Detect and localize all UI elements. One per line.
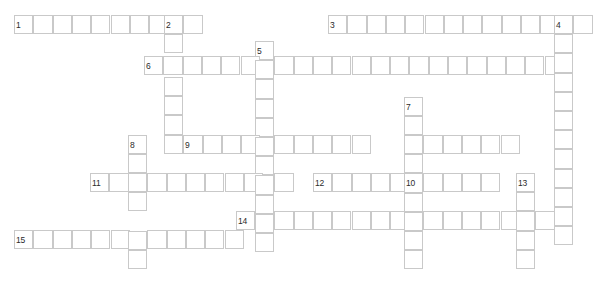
crossword-cell[interactable] — [332, 56, 351, 75]
crossword-cell[interactable] — [390, 56, 409, 75]
crossword-cell[interactable] — [186, 173, 205, 192]
crossword-cell[interactable] — [164, 15, 183, 34]
crossword-cell[interactable] — [164, 135, 183, 154]
crossword-cell[interactable] — [371, 173, 390, 192]
crossword-cell[interactable] — [404, 173, 423, 192]
crossword-cell[interactable] — [554, 34, 573, 53]
crossword-cell[interactable] — [404, 116, 423, 135]
crossword-cell[interactable] — [371, 211, 390, 230]
crossword-cell[interactable] — [404, 193, 423, 212]
crossword-cell[interactable] — [481, 211, 500, 230]
crossword-cell[interactable] — [255, 79, 274, 98]
crossword-cell[interactable] — [352, 173, 371, 192]
crossword-cell[interactable] — [274, 173, 293, 192]
crossword-cell[interactable] — [332, 211, 351, 230]
crossword-cell[interactable] — [14, 230, 33, 249]
crossword-cell[interactable] — [183, 15, 202, 34]
crossword-cell[interactable] — [111, 15, 130, 34]
crossword-cell[interactable] — [554, 92, 573, 111]
crossword-cell[interactable] — [183, 56, 202, 75]
crossword-cell[interactable] — [205, 230, 224, 249]
crossword-cell[interactable] — [423, 173, 442, 192]
crossword-cell[interactable] — [554, 73, 573, 92]
crossword-cell[interactable] — [352, 56, 371, 75]
crossword-cell[interactable] — [332, 173, 351, 192]
crossword-cell[interactable] — [371, 56, 390, 75]
crossword-cell[interactable] — [221, 56, 240, 75]
crossword-cell[interactable] — [164, 96, 183, 115]
crossword-cell[interactable] — [554, 226, 573, 245]
crossword-cell[interactable] — [128, 231, 147, 250]
crossword-cell[interactable] — [130, 15, 149, 34]
crossword-cell[interactable] — [274, 135, 293, 154]
crossword-cell[interactable] — [128, 154, 147, 173]
crossword-cell[interactable] — [429, 56, 448, 75]
crossword-cell[interactable] — [294, 56, 313, 75]
crossword-cell[interactable] — [462, 211, 481, 230]
crossword-cell[interactable] — [202, 56, 221, 75]
crossword-cell[interactable] — [313, 211, 332, 230]
crossword-cell[interactable] — [482, 15, 501, 34]
crossword-cell[interactable] — [462, 135, 481, 154]
crossword-cell[interactable] — [255, 195, 274, 214]
crossword-cell[interactable] — [164, 77, 183, 96]
crossword-cell[interactable] — [525, 56, 544, 75]
crossword-cell[interactable] — [205, 173, 224, 192]
crossword-cell[interactable] — [487, 56, 506, 75]
crossword-cell[interactable] — [91, 15, 110, 34]
crossword-cell[interactable] — [423, 135, 442, 154]
crossword-cell[interactable] — [167, 230, 186, 249]
crossword-cell[interactable] — [109, 173, 128, 192]
crossword-cell[interactable] — [501, 135, 520, 154]
crossword-cell[interactable] — [423, 211, 442, 230]
crossword-cell[interactable] — [328, 15, 347, 34]
crossword-cell[interactable] — [404, 250, 423, 269]
crossword-cell[interactable] — [164, 115, 183, 134]
crossword-cell[interactable] — [404, 154, 423, 173]
crossword-cell[interactable] — [53, 15, 72, 34]
crossword-cell[interactable] — [128, 135, 147, 154]
crossword-cell[interactable] — [313, 173, 332, 192]
crossword-cell[interactable] — [91, 230, 110, 249]
crossword-cell[interactable] — [535, 211, 554, 230]
crossword-cell[interactable] — [183, 135, 202, 154]
crossword-cell[interactable] — [274, 56, 293, 75]
crossword-cell[interactable] — [554, 15, 573, 34]
crossword-cell[interactable] — [404, 231, 423, 250]
crossword-cell[interactable] — [294, 211, 313, 230]
crossword-cell[interactable] — [128, 173, 147, 192]
crossword-cell[interactable] — [443, 211, 462, 230]
crossword-cell[interactable] — [332, 135, 351, 154]
crossword-cell[interactable] — [554, 169, 573, 188]
crossword-cell[interactable] — [352, 211, 371, 230]
crossword-cell[interactable] — [516, 173, 535, 192]
crossword-cell[interactable] — [167, 173, 186, 192]
crossword-cell[interactable] — [72, 15, 91, 34]
crossword-cell[interactable] — [255, 137, 274, 156]
crossword-cell[interactable] — [294, 135, 313, 154]
crossword-cell[interactable] — [516, 231, 535, 250]
crossword-cell[interactable] — [33, 15, 52, 34]
crossword-cell[interactable] — [405, 15, 424, 34]
crossword-cell[interactable] — [222, 135, 241, 154]
crossword-cell[interactable] — [443, 173, 462, 192]
crossword-cell[interactable] — [90, 173, 109, 192]
crossword-cell[interactable] — [186, 230, 205, 249]
crossword-cell[interactable] — [554, 53, 573, 72]
crossword-cell[interactable] — [147, 173, 166, 192]
crossword-cell[interactable] — [516, 211, 535, 230]
crossword-cell[interactable] — [147, 230, 166, 249]
crossword-cell[interactable] — [255, 233, 274, 252]
crossword-cell[interactable] — [367, 15, 386, 34]
crossword-cell[interactable] — [352, 135, 371, 154]
crossword-cell[interactable] — [163, 56, 182, 75]
crossword-cell[interactable] — [502, 15, 521, 34]
crossword-cell[interactable] — [516, 192, 535, 211]
crossword-cell[interactable] — [516, 250, 535, 269]
crossword-cell[interactable] — [506, 56, 525, 75]
crossword-cell[interactable] — [425, 15, 444, 34]
crossword-cell[interactable] — [481, 173, 500, 192]
crossword-cell[interactable] — [404, 135, 423, 154]
crossword-cell[interactable] — [33, 230, 52, 249]
crossword-cell[interactable] — [467, 56, 486, 75]
